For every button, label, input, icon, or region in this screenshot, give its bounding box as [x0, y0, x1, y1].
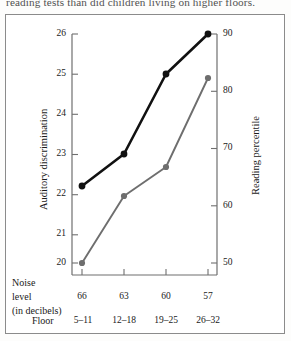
- series-auditory-discrimination: [79, 31, 212, 190]
- right-tick-70: 70: [223, 142, 245, 152]
- x-category-63: 63: [104, 291, 144, 301]
- left-tick-21: 21: [44, 228, 66, 238]
- floor-range-5-11: 5–11: [62, 315, 104, 325]
- left-tick-26: 26: [44, 28, 66, 38]
- series-reading-percentile: [79, 75, 211, 266]
- right-tick-80: 80: [223, 85, 245, 95]
- left-tick-25: 25: [44, 68, 66, 78]
- left-tick-20: 20: [44, 257, 66, 267]
- x-axis-title-line-1: Noise: [12, 277, 35, 288]
- left-tick-24: 24: [44, 108, 66, 118]
- caption-text: reading tests than did children living o…: [6, 0, 291, 8]
- x-axis-title-line-2: level: [12, 291, 31, 302]
- floor-row-title: Floor: [32, 315, 54, 326]
- caption-strip: reading tests than did children living o…: [0, 0, 291, 13]
- figure-page: reading tests than did children living o…: [0, 0, 291, 341]
- right-tick-90: 90: [223, 28, 245, 38]
- right-tick-50: 50: [223, 257, 245, 267]
- right-tick-60: 60: [223, 200, 245, 210]
- left-tick-22: 22: [44, 188, 66, 198]
- floor-range-12-18: 12–18: [103, 315, 145, 325]
- x-category-66: 66: [62, 291, 102, 301]
- floor-range-26-32: 26–32: [187, 315, 229, 325]
- right-axis-title: Reading percentile: [250, 116, 261, 195]
- x-category-60: 60: [146, 291, 186, 301]
- left-tick-23: 23: [44, 148, 66, 158]
- floor-range-19-25: 19–25: [145, 315, 187, 325]
- figure-frame: Auditory discrimination Reading percenti…: [5, 14, 285, 334]
- x-category-57: 57: [188, 291, 228, 301]
